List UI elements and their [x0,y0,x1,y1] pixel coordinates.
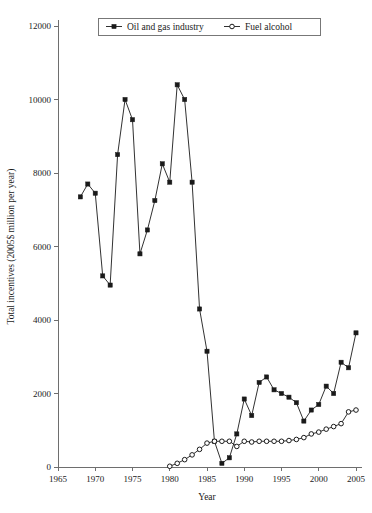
data-point-marker [108,283,112,287]
data-point-marker [205,441,210,446]
incentives-line-chart: 020004000600080001000012000 196519701975… [0,0,372,513]
data-point-marker [339,360,343,364]
data-point-marker [265,375,269,379]
x-tick-label: 1990 [235,474,254,484]
data-point-marker [339,421,344,426]
data-point-marker [190,180,194,184]
data-point-marker [153,198,157,202]
data-point-marker [302,435,307,440]
data-point-marker [316,430,321,435]
data-point-marker [264,439,269,444]
series-line [80,85,356,464]
x-tick-label: 2005 [347,474,366,484]
data-point-marker [227,439,232,444]
data-point-marker [309,408,313,412]
data-series-group [78,83,358,469]
data-point-marker [168,180,172,184]
chart-figure: 020004000600080001000012000 196519701975… [0,0,372,513]
y-axis-ticks: 020004000600080001000012000 [29,21,59,472]
data-point-marker [220,439,225,444]
data-point-marker [242,397,246,401]
data-point-marker [302,419,306,423]
data-point-marker [175,461,180,466]
data-point-marker [197,307,201,311]
data-point-marker [197,447,202,452]
y-tick-label: 10000 [29,95,52,105]
data-point-marker [294,437,299,442]
data-point-marker [116,153,120,157]
series-fuel-alcohol [167,408,358,469]
data-point-marker [227,456,231,460]
data-point-marker [212,439,217,444]
data-point-marker [287,395,291,399]
x-axis-title: Year [198,492,216,502]
data-point-marker [354,331,358,335]
data-point-marker [167,464,172,469]
x-axis-ticks: 196519701975198019851990199520002005 [49,467,366,484]
x-tick-label: 1970 [86,474,105,484]
data-point-marker [324,427,329,432]
data-point-marker [78,195,82,199]
data-point-marker [346,366,350,370]
data-point-marker [257,439,262,444]
data-point-marker [93,191,97,195]
data-point-marker [294,401,298,405]
data-point-marker [160,162,164,166]
data-point-marker [279,439,284,444]
x-tick-label: 1975 [124,474,143,484]
data-point-marker [257,380,261,384]
data-point-marker [86,182,90,186]
y-tick-label: 4000 [33,315,52,325]
y-tick-label: 2000 [33,389,52,399]
axis-lines [58,20,362,467]
data-point-marker [324,384,328,388]
data-point-marker [235,444,240,449]
data-point-marker [346,410,351,415]
y-tick-label: 0 [47,462,52,472]
data-point-marker [249,440,254,445]
data-point-marker [279,391,283,395]
data-point-marker [272,439,277,444]
data-point-marker [235,432,239,436]
data-point-marker [101,274,105,278]
legend-sample-marker [112,24,116,28]
data-point-marker [145,228,149,232]
x-tick-label: 1980 [161,474,180,484]
data-point-marker [317,402,321,406]
data-point-marker [332,391,336,395]
legend-label: Oil and gas industry [127,22,204,32]
data-point-marker [190,453,195,458]
legend-sample-marker [230,24,235,29]
data-point-marker [175,83,179,87]
y-tick-label: 12000 [29,21,52,31]
data-point-marker [331,424,336,429]
data-point-marker [130,118,134,122]
x-tick-label: 1985 [198,474,217,484]
data-point-marker [287,438,292,443]
data-point-marker [242,439,247,444]
data-point-marker [123,97,127,101]
data-point-marker [250,413,254,417]
data-point-marker [272,388,276,392]
chart-legend: Oil and gas industryFuel alcohol [98,18,320,35]
x-tick-label: 1965 [49,474,68,484]
data-point-marker [309,432,314,437]
data-point-marker [205,349,209,353]
legend-label: Fuel alcohol [245,22,293,32]
data-point-marker [183,97,187,101]
data-point-marker [354,408,359,413]
series-oil-and-gas-industry [78,83,358,466]
y-tick-label: 6000 [33,242,52,252]
x-tick-label: 2000 [310,474,329,484]
y-tick-label: 8000 [33,168,52,178]
data-point-marker [220,461,224,465]
data-point-marker [182,457,187,462]
y-axis-title: Total incentives (2005$ million per year… [6,169,17,325]
series-line [170,410,356,466]
x-tick-label: 1995 [273,474,292,484]
data-point-marker [138,252,142,256]
